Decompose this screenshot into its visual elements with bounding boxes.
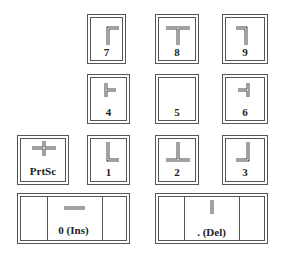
key-8-label: 8 (156, 46, 198, 58)
key-1[interactable]: 1 (87, 135, 130, 185)
key-0-ins[interactable]: 0 (Ins) (17, 193, 130, 244)
corner-bottom-right-icon (223, 136, 269, 186)
key-2-label: 2 (156, 166, 198, 178)
key-4[interactable]: 4 (87, 74, 130, 124)
key-9-label: 9 (223, 46, 267, 58)
cross-icon (18, 136, 70, 186)
key-5-label: 5 (156, 106, 198, 118)
key-4-label: 4 (88, 106, 129, 118)
key-7-label: 7 (88, 46, 125, 58)
key-7[interactable]: 7 (87, 14, 126, 64)
key-3-label: 3 (223, 166, 267, 178)
key-prtsc[interactable]: PrtSc (17, 135, 69, 185)
key-prtsc-label: PrtSc (18, 165, 68, 177)
key-8[interactable]: 8 (155, 14, 199, 64)
key-0-label: 0 (Ins) (18, 224, 129, 236)
key-del[interactable]: . (Del) (155, 193, 268, 244)
tee-up-icon (156, 136, 200, 186)
key-5[interactable]: 5 (155, 74, 199, 124)
key-9[interactable]: 9 (222, 14, 268, 64)
key-del-label: . (Del) (156, 226, 267, 238)
key-1-label: 1 (88, 166, 129, 178)
horizontal-line-icon (18, 194, 131, 245)
key-6[interactable]: 6 (222, 74, 268, 124)
key-2[interactable]: 2 (155, 135, 199, 185)
key-6-label: 6 (223, 106, 267, 118)
key-3[interactable]: 3 (222, 135, 268, 185)
corner-bottom-left-icon (88, 136, 131, 186)
